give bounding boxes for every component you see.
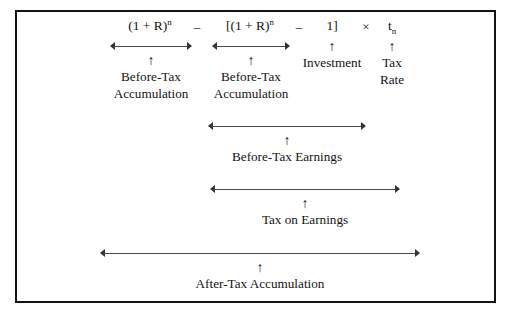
formula-operator-times: ×: [362, 20, 369, 34]
up-arrow-after-tax-accumulation-icon: ↑: [257, 261, 264, 275]
arrow-head-right-icon: [361, 122, 366, 130]
formula-operator-minus-2: –: [296, 20, 303, 34]
arrow-head-right-icon: [395, 185, 400, 193]
arrow-shaft: [213, 189, 397, 190]
arrow-shaft: [113, 46, 189, 47]
up-arrow-term-2-icon: ↑: [248, 54, 255, 68]
label-term-4-line-2: Rate: [380, 73, 404, 87]
formula-term-2: [(1 + R)n: [226, 19, 274, 33]
up-arrow-tax-on-earnings-icon: ↑: [302, 197, 309, 211]
subscript-n: n: [392, 26, 396, 36]
up-arrow-term-3-icon: ↑: [329, 40, 336, 54]
label-term-2-line-1: Before-Tax: [221, 70, 281, 84]
exponent-n: n: [270, 17, 274, 27]
up-arrow-term-4-icon: ↑: [389, 40, 396, 54]
up-arrow-term-1-icon: ↑: [148, 54, 155, 68]
formula-diagram: (1 + R)n – [(1 + R)n – 1] × tn ↑ ↑ ↑ ↑ B…: [0, 0, 512, 318]
span-arrow-term-2: [212, 42, 290, 51]
arrow-head-right-icon: [187, 42, 192, 50]
label-tax-on-earnings: Tax on Earnings: [262, 213, 348, 227]
arrow-shaft: [215, 46, 287, 47]
exponent-n: n: [167, 17, 171, 27]
formula-term-4: tn: [388, 19, 396, 33]
label-term-3: Investment: [303, 56, 362, 70]
arrow-shaft: [103, 253, 417, 254]
span-arrow-before-tax-earnings: [208, 122, 366, 131]
arrow-shaft: [211, 126, 363, 127]
arrow-head-right-icon: [285, 42, 290, 50]
formula-term-1: (1 + R)n: [128, 19, 172, 33]
label-term-2-line-2: Accumulation: [214, 87, 289, 101]
span-arrow-term-1: [110, 42, 192, 51]
arrow-head-right-icon: [415, 249, 420, 257]
label-before-tax-earnings: Before-Tax Earnings: [232, 150, 342, 164]
formula-operator-minus-1: –: [194, 20, 201, 34]
label-term-1-line-1: Before-Tax: [121, 70, 181, 84]
label-after-tax-accumulation: After-Tax Accumulation: [196, 277, 325, 291]
label-term-4-line-1: Tax: [382, 56, 402, 70]
label-term-1-line-2: Accumulation: [114, 87, 189, 101]
span-arrow-tax-on-earnings: [210, 185, 400, 194]
up-arrow-before-tax-earnings-icon: ↑: [284, 134, 291, 148]
formula-term-3: 1]: [326, 19, 337, 33]
span-arrow-after-tax-accumulation: [100, 249, 420, 258]
